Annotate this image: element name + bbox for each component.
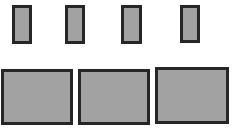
small-rectangle-3 [121,5,142,44]
large-rectangle-3 [155,67,229,124]
small-rectangle-2 [65,5,85,44]
small-rectangle-1 [12,5,32,44]
small-rectangle-4 [180,5,200,43]
large-rectangle-1 [1,69,73,125]
large-rectangle-2 [78,69,150,125]
